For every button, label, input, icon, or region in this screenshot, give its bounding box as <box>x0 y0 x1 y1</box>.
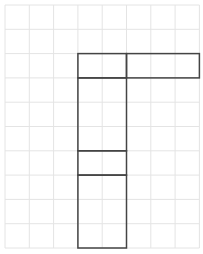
shape-top-right-bar <box>127 54 200 78</box>
grid-diagram <box>0 0 203 254</box>
background-grid <box>5 5 199 248</box>
